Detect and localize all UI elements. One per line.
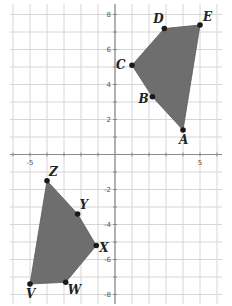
vertex-label-Z: Z	[48, 165, 59, 179]
vertex-point-Y	[75, 211, 81, 217]
y-tick-label: -8	[104, 291, 111, 299]
polygon-fill	[30, 181, 96, 284]
vertex-point-D	[162, 26, 168, 32]
vertex-point-B	[150, 94, 156, 100]
vertex-label-C: C	[116, 58, 126, 72]
y-tick-label: -2	[104, 186, 111, 194]
vertex-label-E: E	[202, 10, 213, 24]
vertex-point-E	[197, 22, 203, 28]
y-tick-label: -6	[104, 256, 112, 264]
x-tick-label: -5	[27, 159, 34, 167]
vertex-label-B: B	[137, 92, 148, 106]
vertex-point-A	[180, 127, 186, 133]
vertex-label-X: X	[98, 241, 109, 255]
vertex-label-D: D	[152, 12, 164, 26]
vertex-point-X	[94, 243, 100, 249]
vertex-point-C	[129, 62, 135, 68]
y-tick-label: 2	[107, 116, 111, 124]
vertex-point-V	[27, 281, 33, 287]
y-tick-label: 6	[107, 46, 112, 54]
polygon-ABCDE: ABCDE	[116, 10, 213, 147]
vertex-point-Z	[44, 178, 50, 184]
polygons: ABCDEZYXWV	[26, 10, 213, 301]
polygon-VWXYZ: ZYXWV	[26, 165, 109, 301]
vertex-label-A: A	[178, 133, 188, 147]
coordinate-plane: -558642-2-4-6-8 ABCDEZYXWV	[0, 0, 232, 306]
y-tick-label: 4	[107, 81, 112, 89]
y-tick-label: -4	[104, 221, 112, 229]
vertex-label-W: W	[68, 283, 83, 297]
vertex-label-Y: Y	[80, 198, 90, 212]
y-tick-label: 8	[107, 11, 111, 19]
x-tick-label: 5	[198, 159, 202, 167]
